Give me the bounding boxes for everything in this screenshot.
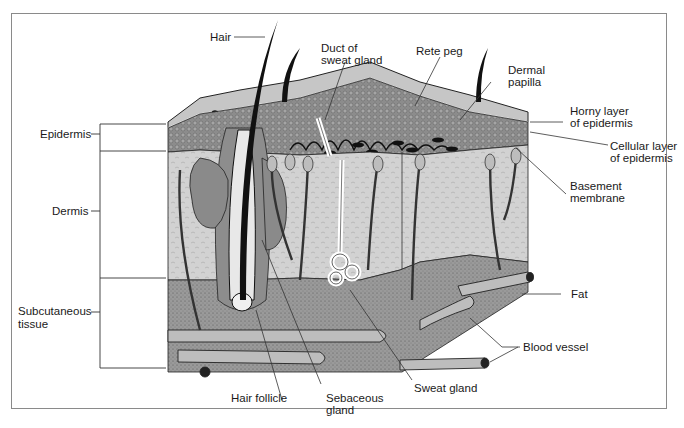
label-basement-membrane-line2: membrane <box>570 192 625 205</box>
label-blood-vessel: Blood vessel <box>523 341 588 354</box>
label-dermal-papilla-line2: papilla <box>508 76 541 89</box>
label-rete-peg: Rete peg <box>416 45 463 58</box>
label-duct-line2: sweat gland <box>321 54 382 67</box>
label-sweat-gland: Sweat gland <box>414 382 477 395</box>
label-sebaceous-gland-line2: gland <box>326 404 354 417</box>
label-hair-follicle: Hair follicle <box>231 392 287 405</box>
label-dermal-papilla-line1: Dermal <box>508 64 545 77</box>
layer-brackets <box>91 124 166 368</box>
label-epidermis: Epidermis <box>40 128 91 141</box>
label-subcutaneous-line1: Subcutaneous <box>18 305 92 318</box>
label-horny-layer-line1: Horny layer <box>570 105 629 118</box>
label-fat: Fat <box>571 288 588 301</box>
label-cellular-layer-line2: of epidermis <box>610 152 673 165</box>
label-cellular-layer-line1: Cellular layer <box>610 140 677 153</box>
label-sebaceous-gland-line1: Sebaceous <box>326 392 384 405</box>
label-dermis: Dermis <box>52 205 88 218</box>
label-subcutaneous-line2: tissue <box>18 318 48 331</box>
label-horny-layer-line2: of epidermis <box>570 117 633 130</box>
label-duct-line1: Duct of <box>321 42 357 55</box>
label-hair: Hair <box>210 31 231 44</box>
label-basement-membrane-line1: Basement <box>570 180 622 193</box>
